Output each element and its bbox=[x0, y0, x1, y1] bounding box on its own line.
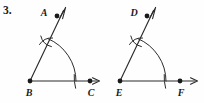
label-point-c: C bbox=[88, 87, 95, 98]
figure-angle-def: D E F bbox=[115, 7, 198, 98]
geometry-figure-canvas: 3. A B C bbox=[0, 0, 204, 103]
point-b-dot bbox=[28, 79, 33, 84]
label-point-e: E bbox=[115, 87, 123, 98]
ray-ed-arrowhead bbox=[150, 7, 156, 18]
figure-page: 3. A B C bbox=[0, 0, 204, 103]
label-point-a: A bbox=[40, 7, 48, 18]
label-point-d: D bbox=[129, 7, 137, 18]
label-point-f: F bbox=[177, 87, 185, 98]
ray-ba-arrowhead bbox=[60, 7, 66, 18]
compass-arc-b bbox=[48, 39, 76, 81]
point-f-dot bbox=[178, 79, 183, 84]
ray-ed-line bbox=[120, 11, 154, 82]
ray-ba-line bbox=[30, 11, 64, 82]
point-e-dot bbox=[118, 79, 123, 84]
point-d-dot bbox=[145, 14, 150, 19]
point-c-dot bbox=[88, 79, 93, 84]
compass-arc-e bbox=[138, 39, 166, 81]
figure-angle-abc: A B C bbox=[25, 7, 100, 98]
problem-number: 3. bbox=[3, 4, 12, 16]
point-a-dot bbox=[55, 14, 60, 19]
label-point-b: B bbox=[25, 87, 33, 98]
